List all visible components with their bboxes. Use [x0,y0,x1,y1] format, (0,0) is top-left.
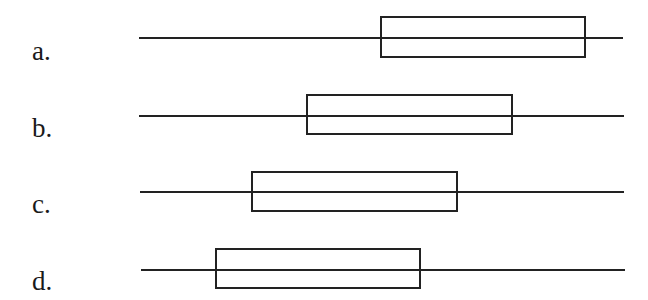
option-row-d [141,249,625,288]
option-row-c [140,172,624,211]
interval-diagram [0,0,648,300]
interval-box [307,95,512,134]
interval-box [216,249,420,288]
option-row-a [139,17,623,57]
option-row-b [139,95,624,134]
